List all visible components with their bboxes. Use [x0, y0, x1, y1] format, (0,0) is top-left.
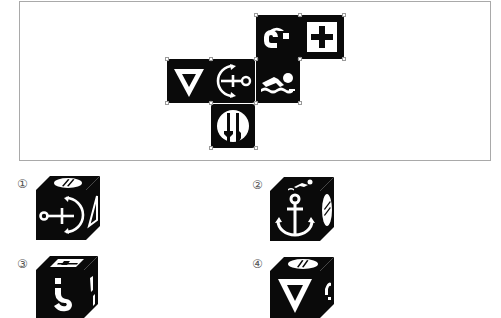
option-4-cube[interactable] — [270, 257, 334, 318]
fork-knife-icon — [211, 104, 255, 148]
swimmer-icon — [256, 59, 300, 103]
option-3-cube[interactable] — [36, 256, 98, 318]
question-mark-rotated-icon — [256, 15, 300, 59]
option-label-1: ① — [17, 177, 28, 191]
net-corner-mark — [298, 13, 302, 17]
net-corner-mark — [254, 57, 258, 61]
option-label-2: ② — [252, 178, 263, 192]
first-aid-cross-icon — [300, 15, 344, 59]
option-label-3: ③ — [17, 257, 28, 271]
net-face-anchor — [211, 59, 255, 103]
net-corner-mark — [254, 13, 258, 17]
option-2-cube[interactable] — [270, 177, 334, 241]
inverted-triangle-icon — [167, 59, 211, 103]
net-corner-mark — [254, 146, 258, 150]
net-frame — [19, 1, 491, 161]
fork-knife-icon — [322, 194, 332, 226]
net-corner-mark — [209, 101, 213, 105]
net-face-triangle — [167, 59, 211, 103]
net-corner-mark — [254, 101, 258, 105]
net-corner-mark — [298, 57, 302, 61]
net-face-swimmer — [256, 59, 300, 103]
anchor-rotated-icon — [211, 59, 255, 103]
option-1-cube[interactable] — [36, 176, 100, 240]
net-face-question — [256, 15, 300, 59]
net-face-cutlery — [211, 104, 255, 148]
net-corner-mark — [298, 101, 302, 105]
net-corner-mark — [209, 57, 213, 61]
net-corner-mark — [209, 146, 213, 150]
option-label-4: ④ — [252, 257, 263, 271]
net-face-cross — [300, 15, 344, 59]
net-corner-mark — [342, 13, 346, 17]
net-corner-mark — [165, 101, 169, 105]
net-corner-mark — [165, 57, 169, 61]
net-corner-mark — [342, 57, 346, 61]
